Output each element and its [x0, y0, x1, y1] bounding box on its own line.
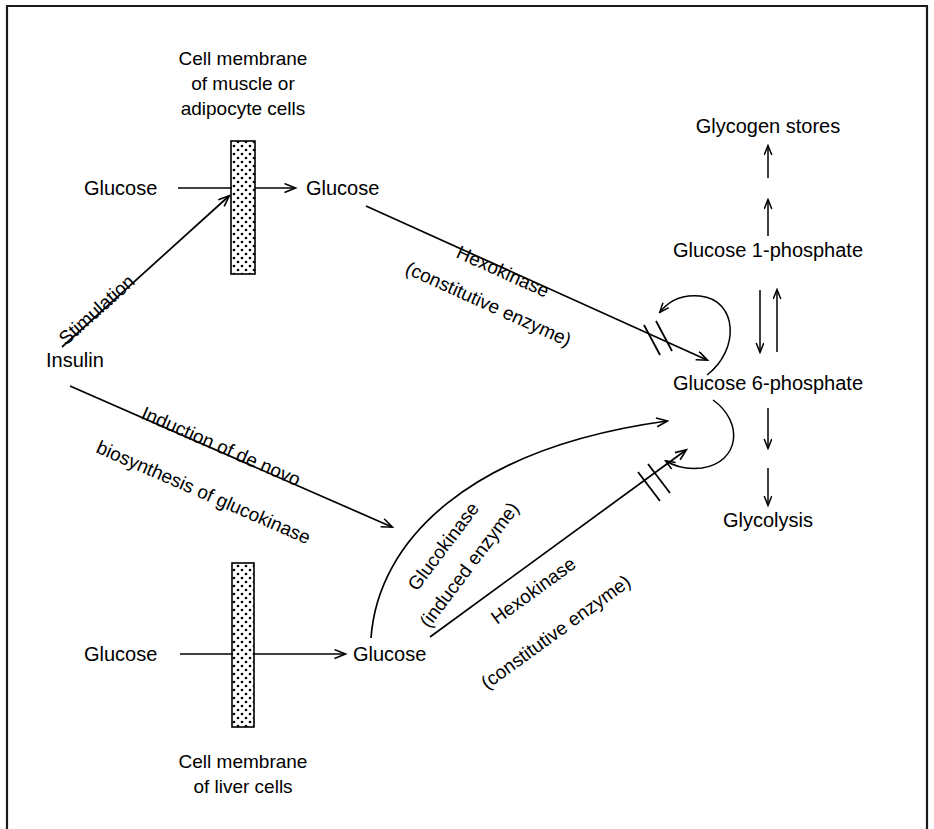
feedback-loop-upper [660, 296, 730, 375]
node-glycolysis: Glycolysis [723, 509, 813, 531]
liver-membrane-caption-line2: of liver cells [193, 776, 292, 797]
node-glucose-1-phosphate: Glucose 1-phosphate [673, 239, 863, 261]
edge-label-hexokinase-liver-line2: (constitutive enzyme) [477, 571, 635, 694]
muscle-membrane-group [231, 141, 255, 274]
liver-membrane-group [232, 563, 254, 727]
edge-label-stimulation: Stimulation [55, 270, 139, 349]
edge-label-induction-line2: biosynthesis of glucokinase [93, 436, 313, 548]
hexokinase-liver-arrow [430, 450, 686, 637]
node-glucose-6-phosphate: Glucose 6-phosphate [673, 372, 863, 394]
liver-membrane-caption-line1: Cell membrane [179, 751, 308, 772]
muscle-membrane-caption-line3: adipocyte cells [181, 98, 306, 119]
liver-cell-membrane-bar [232, 563, 254, 727]
node-glucose-inside-muscle: Glucose [306, 177, 379, 199]
node-glucose-inside-liver: Glucose [353, 643, 426, 665]
metabolic-pathway-diagram: Cell membrane of muscle or adipocyte cel… [0, 0, 934, 829]
muscle-membrane-caption-line1: Cell membrane [179, 48, 308, 69]
feedback-loop-lower [666, 400, 734, 469]
node-glucose-outside-liver: Glucose [84, 643, 157, 665]
muscle-cell-membrane-bar [231, 141, 255, 274]
node-glycogen-stores: Glycogen stores [696, 115, 841, 137]
node-insulin: Insulin [46, 349, 104, 371]
figure-root: Cell membrane of muscle or adipocyte cel… [0, 0, 934, 829]
muscle-membrane-caption-line2: of muscle or [191, 73, 295, 94]
node-glucose-outside-muscle: Glucose [84, 177, 157, 199]
